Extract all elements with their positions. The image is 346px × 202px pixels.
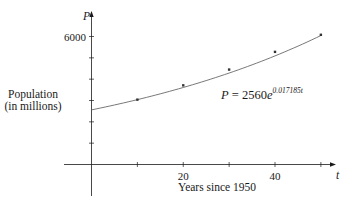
data-point [320, 34, 322, 36]
y-axis-variable: P [82, 10, 90, 22]
y-axis-label-line2: (in millions) [4, 100, 61, 113]
data-point [136, 98, 138, 100]
model-curve [92, 36, 321, 110]
y-tick-labels: 6000 [64, 31, 87, 43]
equation-annotation: P = 2560e0.017185t [220, 86, 304, 102]
x-axis-arrow-icon [330, 162, 336, 166]
y-tick-label: 6000 [64, 31, 87, 43]
population-chart: 2040 6000 P t Population (in millions) Y… [0, 0, 346, 202]
equation-exponent: 0.017185t [273, 86, 304, 95]
data-point [228, 68, 230, 70]
x-axis-variable: t [336, 169, 340, 181]
data-point [182, 84, 184, 86]
data-point [274, 51, 276, 53]
x-axis-label: Years since 1950 [178, 181, 256, 193]
x-tick-label: 40 [270, 170, 282, 182]
